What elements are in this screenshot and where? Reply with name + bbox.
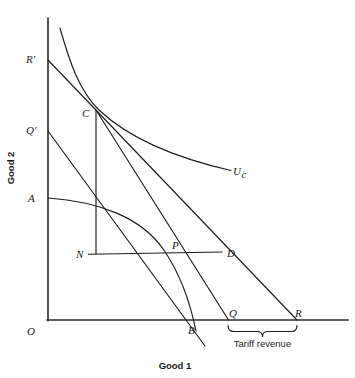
- label-r-prime: R': [25, 53, 36, 65]
- label-c: C: [82, 107, 90, 119]
- axes-group: [47, 18, 348, 321]
- label-q-prime: Q': [26, 124, 37, 136]
- label-a: A: [27, 192, 35, 204]
- world-price-line-rprime-r: [48, 60, 297, 320]
- label-uc-subscript: c: [242, 168, 247, 180]
- label-origin: O: [27, 325, 35, 337]
- tariff-revenue-label: Tariff revenue: [234, 338, 291, 349]
- segment-n-p-d-horizontal: [88, 252, 223, 254]
- domestic-price-line-c-q: [96, 110, 229, 320]
- curves-group: [48, 28, 297, 346]
- label-n: N: [75, 248, 84, 260]
- price-line-qprime-p: [48, 131, 205, 346]
- label-q: Q: [229, 307, 237, 319]
- label-b: B: [188, 324, 195, 336]
- brace-shape: [228, 326, 297, 337]
- label-p: P: [171, 239, 179, 251]
- x-axis-title: Good 1: [159, 360, 192, 371]
- economics-diagram-figure: R' Q' A C N P D B Q R O U c Tariff reven…: [0, 0, 355, 378]
- point-labels-group: R' Q' A C N P D B Q R O U c: [25, 53, 302, 337]
- label-d: D: [226, 247, 235, 259]
- diagram-canvas: R' Q' A C N P D B Q R O U c Tariff reven…: [0, 0, 355, 378]
- tariff-revenue-brace: [228, 326, 297, 337]
- y-axis-title: Good 2: [5, 152, 16, 185]
- label-r: R: [294, 307, 302, 319]
- label-indifference-curve: U c: [233, 165, 247, 180]
- production-possibility-frontier: [48, 198, 196, 331]
